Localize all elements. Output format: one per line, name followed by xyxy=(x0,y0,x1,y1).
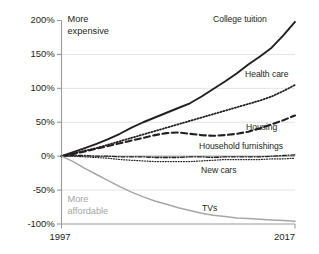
y-tick-label: -50% xyxy=(33,184,55,195)
y-tick-label: 150% xyxy=(31,48,55,59)
annotation-more-affordable: More affordable xyxy=(68,194,109,217)
series-label-college-tuition: College tuition xyxy=(213,14,267,24)
annotation-more-expensive: More expensive xyxy=(68,14,109,37)
annotation-more-expensive-line2: expensive xyxy=(68,26,109,38)
annotation-more-affordable-line2: affordable xyxy=(68,206,109,218)
y-tick-label: 100% xyxy=(31,82,55,93)
annotation-more-affordable-line1: More xyxy=(68,194,109,206)
x-tick-label: 2017 xyxy=(274,231,295,242)
series-label-household-furnishings: Household furnishings xyxy=(199,141,283,151)
series-label-tvs: TVs xyxy=(202,203,217,213)
y-tick-label: 0% xyxy=(41,150,55,161)
x-tick-label: 1997 xyxy=(50,231,71,242)
series-line-college-tuition xyxy=(62,22,296,156)
series-label-new-cars: New cars xyxy=(201,165,236,175)
y-tick-label: -100% xyxy=(28,218,55,229)
y-tick-label: 50% xyxy=(36,116,55,127)
price-change-line-chart: 200%150%100%50%0%-50%-100% 19972017 Coll… xyxy=(0,0,319,254)
series-label-housing: Housing xyxy=(246,122,277,132)
series-label-health-care: Health care xyxy=(245,69,288,79)
annotation-more-expensive-line1: More xyxy=(68,14,109,26)
y-tick-label: 200% xyxy=(31,14,55,25)
